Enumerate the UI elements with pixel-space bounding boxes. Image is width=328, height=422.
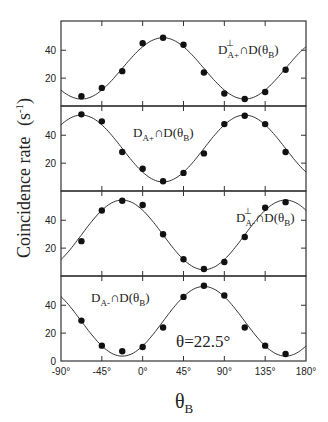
panels: 2040D⊥A+∩D(θB)2040DA+∩D(θB)2040D⊥A-∩D(θB…: [45, 21, 306, 367]
data-point: [262, 342, 268, 348]
data-point: [78, 317, 84, 323]
data-point: [78, 93, 84, 99]
panel-2: 2040DA+∩D(θB): [45, 106, 306, 191]
data-point: [242, 96, 248, 102]
theta-annotation: θ=22.5°: [176, 332, 230, 351]
data-point: [221, 259, 227, 265]
data-point: [282, 351, 288, 357]
series-label: DA-∩D(θB): [91, 290, 150, 308]
data-point: [119, 68, 125, 74]
y-axis-label: Coincidence rate (s-1): [13, 98, 35, 258]
data-point: [180, 256, 186, 262]
x-tick-label: 180°: [296, 366, 317, 377]
data-point: [180, 170, 186, 176]
series-label: D⊥A-∩D(θB): [236, 206, 295, 228]
y-tick-label: 40: [45, 215, 57, 226]
data-point: [139, 166, 145, 172]
x-tick-label: 90°: [217, 366, 232, 377]
y-tick-label: 20: [45, 328, 57, 339]
data-point: [221, 121, 227, 127]
data-point: [99, 207, 105, 213]
series-label: D⊥A+∩D(θB): [218, 38, 279, 60]
series-label: DA+∩D(θB): [133, 125, 194, 143]
data-point: [139, 40, 145, 46]
x-tick-label: 0°: [138, 366, 148, 377]
data-point: [160, 178, 166, 184]
panel-3: 2040D⊥A-∩D(θB): [45, 191, 306, 276]
data-point: [282, 67, 288, 73]
panel-frame: [61, 106, 306, 191]
x-tick-label: 45°: [176, 366, 191, 377]
data-point: [160, 231, 166, 237]
data-point: [282, 199, 288, 205]
data-point: [180, 294, 186, 300]
data-point: [242, 113, 248, 119]
panel-4: 02040DA-∩D(θB): [45, 276, 306, 367]
data-point: [201, 266, 207, 272]
data-point: [201, 283, 207, 289]
data-point: [282, 149, 288, 155]
x-axis-ticks: -90°-45°0°45°90°135°180°: [52, 366, 317, 377]
data-point: [242, 324, 248, 330]
y-tick-label: 40: [45, 45, 57, 56]
data-point: [119, 149, 125, 155]
data-point: [139, 344, 145, 350]
data-point: [160, 35, 166, 41]
data-point: [78, 111, 84, 117]
y-tick-label: 20: [45, 243, 57, 254]
coincidence-rate-chart: 2040D⊥A+∩D(θB)2040DA+∩D(θB)2040D⊥A-∩D(θB…: [0, 0, 328, 422]
y-tick-label: 40: [45, 130, 57, 141]
data-point: [99, 342, 105, 348]
x-tick-label: 135°: [255, 366, 276, 377]
data-point: [201, 150, 207, 156]
panel-frame: [61, 191, 306, 276]
x-tick-label: -90°: [52, 366, 70, 377]
data-point: [99, 118, 105, 124]
y-tick-label: 40: [45, 300, 57, 311]
data-point: [262, 121, 268, 127]
data-point: [139, 202, 145, 208]
data-point: [221, 90, 227, 96]
data-point: [119, 198, 125, 204]
data-point: [221, 292, 227, 298]
x-axis-label: θB: [175, 390, 194, 416]
data-point: [201, 69, 207, 75]
data-point: [160, 324, 166, 330]
y-tick-label: 20: [45, 158, 57, 169]
data-point: [119, 348, 125, 354]
data-point: [99, 85, 105, 91]
data-point: [78, 238, 84, 244]
data-point: [180, 41, 186, 47]
x-tick-label: -45°: [93, 366, 111, 377]
data-point: [262, 89, 268, 95]
data-point: [242, 234, 248, 240]
y-tick-label: 20: [45, 73, 57, 84]
panel-1: 2040D⊥A+∩D(θB): [45, 21, 306, 106]
